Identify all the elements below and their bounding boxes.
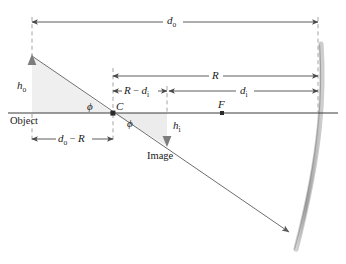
label-object: Object xyxy=(10,115,38,126)
label-phi-lower: ϕ xyxy=(127,117,133,129)
point-C-marker xyxy=(110,111,115,116)
point-F-marker xyxy=(220,111,224,115)
label-C: C xyxy=(116,100,124,112)
label-phi-upper: ϕ xyxy=(87,100,93,112)
label-h-i: hi xyxy=(173,119,181,134)
label-R: R xyxy=(211,69,219,81)
diagram-canvas: do R R − di di do − R ho hi C F ϕ ϕ xyxy=(0,0,346,264)
label-F: F xyxy=(217,98,225,110)
optics-diagram: do R R − di di do − R ho hi C F ϕ ϕ xyxy=(0,0,346,264)
label-image: Image xyxy=(147,150,174,161)
label-h-o: ho xyxy=(17,79,27,94)
